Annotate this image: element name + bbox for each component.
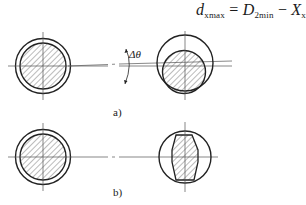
figure-a	[8, 31, 232, 100]
figure-a-right-section	[157, 31, 213, 100]
angle-label: Δθ	[129, 48, 141, 60]
diagram-canvas	[0, 0, 306, 205]
figure-b-label: b)	[113, 186, 122, 198]
figure-b	[8, 122, 218, 192]
figure-a-label: a)	[113, 106, 122, 118]
